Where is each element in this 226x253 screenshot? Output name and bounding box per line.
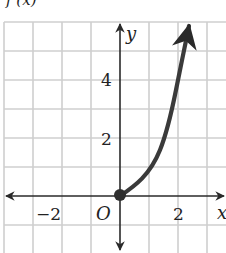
- closed-endpoint-dot: [114, 189, 126, 201]
- y-tick-4: 4: [101, 70, 112, 90]
- x-tick-neg2: −2: [36, 204, 61, 224]
- x-axis-label: x: [217, 202, 226, 223]
- y-tick-2: 2: [101, 129, 112, 149]
- y-axis-label: y: [125, 23, 137, 44]
- graph: y x O −2 2 4 2: [0, 0, 226, 253]
- x-tick-pos2: 2: [173, 204, 184, 224]
- origin-label: O: [96, 203, 111, 224]
